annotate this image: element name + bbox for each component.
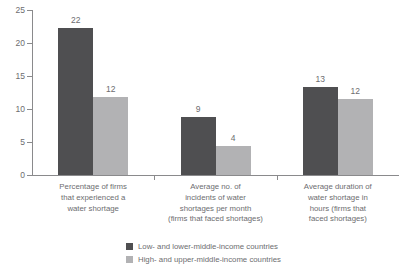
legend-swatch-icon (126, 243, 133, 250)
category-label-line: Percentage of firms (24, 182, 162, 193)
bar-value-label: 22 (48, 16, 103, 25)
y-axis-tick (27, 175, 32, 176)
category-label-line: Average no. of (146, 182, 284, 193)
category-label: Average duration ofwater shortage inhour… (269, 182, 405, 225)
bar (181, 117, 216, 175)
category-label-line: (firms that faced shortages) (146, 214, 284, 225)
category-label-line: shortages per month (146, 204, 284, 215)
bar (93, 97, 128, 175)
bar-value-label: 12 (83, 85, 138, 94)
bar (338, 99, 373, 175)
legend-label: Low- and lower-middle-income countries (138, 242, 278, 251)
category-labels: Percentage of firmsthat experienced awat… (0, 182, 405, 238)
legend-item[interactable]: High- and upper-middle-income countries (126, 253, 281, 266)
category-label-line: water shortage in (269, 193, 405, 204)
bar (303, 87, 338, 175)
plot-area: 0510152025 2212941312 (0, 0, 405, 182)
bar-value-label: 4 (206, 134, 261, 143)
bar-chart: 0510152025 2212941312 Percentage of firm… (0, 0, 405, 278)
chart-legend: Low- and lower-middle-income countriesHi… (0, 240, 405, 274)
x-axis-separator-tick (277, 175, 278, 180)
category-label: Percentage of firmsthat experienced awat… (24, 182, 162, 214)
legend-label: High- and upper-middle-income countries (138, 255, 281, 264)
category-label-line: faced shortages) (269, 214, 405, 225)
category-label: Average no. ofincidents of watershortage… (146, 182, 284, 225)
category-label-line: that experienced a (24, 193, 162, 204)
legend-item[interactable]: Low- and lower-middle-income countries (126, 240, 278, 253)
category-label-line: incidents of water (146, 193, 284, 204)
x-axis-separator-tick (154, 175, 155, 180)
category-label-line: water shortage (24, 204, 162, 215)
category-label-line: Average duration of (269, 182, 405, 193)
bar-value-label: 9 (171, 105, 226, 114)
x-axis-line (32, 175, 399, 176)
category-label-line: hours (firms that (269, 204, 405, 215)
bar-value-label: 13 (293, 75, 348, 84)
bar (58, 28, 93, 175)
legend-swatch-icon (126, 256, 133, 263)
bar (216, 146, 251, 175)
bar-value-label: 12 (328, 87, 383, 96)
